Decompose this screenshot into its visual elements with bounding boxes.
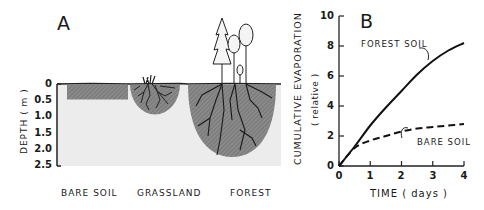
y-tick: 10 [318, 10, 334, 21]
panel-b-letter: B [360, 10, 373, 32]
forest-leader-line [419, 48, 429, 60]
y-tick: 0 [318, 160, 334, 171]
y-tick: 2 [318, 130, 334, 141]
y-tick: 4 [318, 100, 334, 111]
x-tick: 4 [458, 170, 470, 181]
x-tick: 3 [427, 170, 439, 181]
y-tick: 8 [318, 40, 334, 51]
forest-soil-curve [339, 43, 464, 166]
legend-bare-soil: BARE SOIL [417, 137, 471, 147]
x-tick: 0 [333, 170, 345, 181]
legend-forest-soil: FOREST SOIL [361, 39, 427, 49]
time-axis-label: TIME ( days ) [370, 188, 448, 199]
x-tick: 2 [395, 170, 407, 181]
x-tick: 1 [364, 170, 376, 181]
bare-leader-line [401, 128, 408, 138]
y-tick: 6 [318, 70, 334, 81]
evaporation-chart [0, 0, 484, 210]
evaporation-axis-label: CUMULATIVE EVAPORATION [292, 12, 303, 165]
